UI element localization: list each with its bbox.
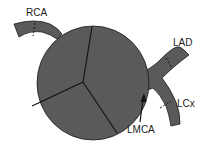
coronary-diagram <box>0 0 205 154</box>
heart-circle <box>37 26 149 140</box>
rca-label: RCA <box>26 8 47 18</box>
lmca-label: LMCA <box>127 125 155 135</box>
rca-vessel <box>14 21 62 39</box>
lcx-label: LCx <box>177 99 195 109</box>
lad-label: LAD <box>173 38 192 48</box>
